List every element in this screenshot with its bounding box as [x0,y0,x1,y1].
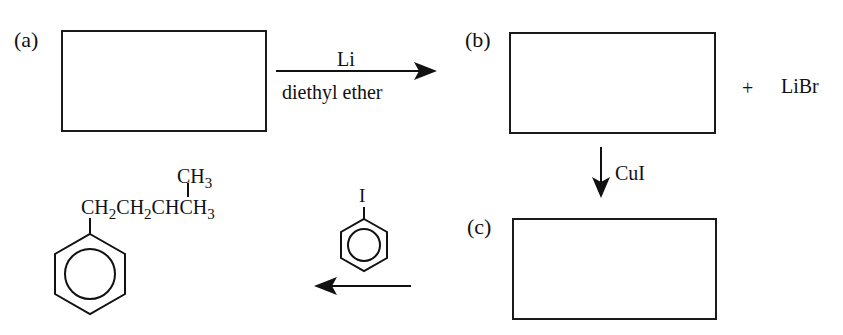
iodobenzene-ring-icon [341,207,387,271]
arrow-down-icon [592,147,610,198]
arrow-right-icon [276,62,437,80]
reaction-graphics [0,0,843,335]
product-benzene-ring-icon [55,218,125,314]
arrow-left-icon [314,277,411,295]
